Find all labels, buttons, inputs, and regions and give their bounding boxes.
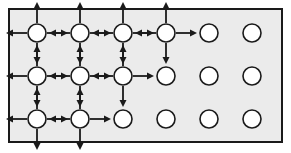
node-active	[157, 24, 175, 42]
node-active	[71, 110, 89, 128]
node-active	[114, 24, 132, 42]
node-active	[71, 24, 89, 42]
diagram-canvas	[0, 0, 291, 153]
node-active	[114, 67, 132, 85]
node-plain	[200, 67, 218, 85]
diagram-container	[0, 0, 291, 153]
node-active	[71, 67, 89, 85]
node-active	[28, 67, 46, 85]
node-plain	[243, 67, 261, 85]
node-active	[28, 24, 46, 42]
node-plain	[200, 24, 218, 42]
node-plain	[243, 24, 261, 42]
node-plain	[157, 110, 175, 128]
node-plain	[157, 67, 175, 85]
node-plain	[114, 110, 132, 128]
node-plain	[200, 110, 218, 128]
node-active	[28, 110, 46, 128]
node-plain	[243, 110, 261, 128]
